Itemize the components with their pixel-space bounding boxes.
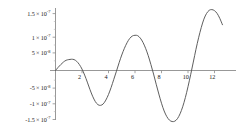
y-tick-label: 1×10-7 [32, 33, 51, 41]
x-axis-tick-labels: 2 4 6 8 10 12 [78, 73, 215, 80]
x-tick-label: 8 [158, 73, 161, 80]
x-tick-label: 4 [105, 73, 108, 80]
plot-figure: 1.5×10-7 1×10-7 5×10-8 -5×10-8 -1×10-7 -… [0, 0, 242, 128]
x-tick-label: 10 [183, 73, 189, 80]
y-tick-label: 5×10-8 [32, 49, 51, 57]
plot-canvas: 1.5×10-7 1×10-7 5×10-8 -5×10-8 -1×10-7 -… [0, 0, 242, 128]
x-tick-label: 12 [209, 73, 215, 80]
x-tick-label: 6 [131, 73, 134, 80]
y-tick-label: -1.5×10-7 [25, 115, 51, 123]
data-series-line [56, 10, 223, 122]
x-tick-label: 2 [78, 73, 81, 80]
y-axis-tick-labels: 1.5×10-7 1×10-7 5×10-8 -5×10-8 -1×10-7 -… [25, 9, 51, 123]
y-tick-label: 1.5×10-7 [27, 9, 51, 17]
y-tick-label: -5×10-8 [30, 84, 52, 92]
y-tick-label: -1×10-7 [30, 100, 52, 108]
